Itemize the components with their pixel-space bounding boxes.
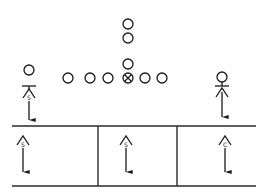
play-diagram: S S S C	[0, 0, 268, 195]
defender-s-deep-middle: S	[120, 136, 132, 172]
left-receiver	[22, 65, 36, 89]
quarterback-icon	[123, 59, 133, 69]
lineman-icon	[157, 73, 167, 83]
back-icon	[123, 19, 133, 29]
defender-label: C	[223, 141, 227, 148]
defender-c-deep-right: C	[219, 136, 231, 172]
deep-zones	[12, 126, 256, 186]
defender-label: S	[21, 141, 25, 148]
lineman-icon	[63, 73, 73, 83]
right-receiver	[215, 72, 229, 117]
back-icon	[123, 33, 133, 43]
lineman-icon	[85, 73, 95, 83]
defender-label: S	[124, 141, 128, 148]
offensive-backs	[123, 19, 133, 69]
receiver-icon	[217, 72, 227, 82]
receiver-icon	[24, 65, 34, 75]
center-icon	[123, 73, 133, 83]
defender-label: S	[27, 94, 31, 101]
offensive-line	[63, 73, 167, 83]
defender-s-line: S	[23, 89, 35, 120]
defender-s-deep-left: S	[17, 136, 29, 172]
lineman-icon	[103, 73, 113, 83]
lineman-icon	[140, 73, 150, 83]
